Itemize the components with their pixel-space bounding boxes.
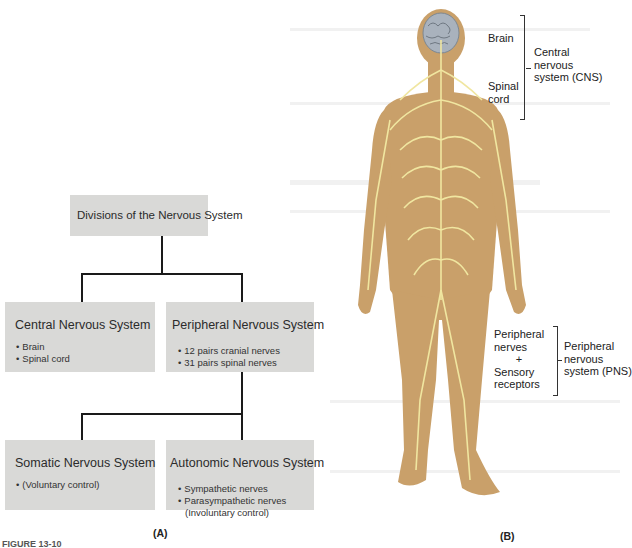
ans-node: Autonomic Nervous System Sympathetic ner… xyxy=(166,440,314,510)
pns-label: Peripheral nervous system (PNS) xyxy=(564,340,632,378)
spinal-cord-label: Spinal cord xyxy=(488,80,519,105)
list-item: 12 pairs cranial nerves xyxy=(178,345,280,357)
root-node: Divisions of the Nervous System xyxy=(70,195,208,236)
connector xyxy=(81,273,242,275)
list-item: Sympathetic nerves xyxy=(178,483,286,495)
list-item: (Voluntary control) xyxy=(16,479,99,491)
figure-caption: FIGURE 13-10 xyxy=(2,539,62,548)
connector xyxy=(241,413,243,440)
cns-bracket xyxy=(520,15,525,120)
ans-node-list: Sympathetic nerves Parasympathetic nerve… xyxy=(178,483,286,519)
plus-sign: + xyxy=(494,353,544,366)
peripheral-nerves-label-line: nerves xyxy=(494,341,544,354)
cns-node-list: Brain Spinal cord xyxy=(16,341,70,365)
list-item: 31 pairs spinal nerves xyxy=(178,357,280,369)
peripheral-nerves-label: Peripheral nerves + Sensory receptors xyxy=(494,328,544,391)
spinal-cord-label-line: cord xyxy=(488,93,519,106)
panel-b-label: (B) xyxy=(500,530,515,542)
list-item: Parasympathetic nerves xyxy=(178,495,286,507)
sns-node-list: (Voluntary control) xyxy=(16,479,99,491)
sensory-receptors-label-line: Sensory xyxy=(494,366,544,379)
cns-label-line: system (CNS) xyxy=(534,71,602,84)
sensory-receptors-label-line: receptors xyxy=(494,378,544,391)
cns-bracket-tick xyxy=(526,68,531,69)
list-item: Brain xyxy=(16,341,70,353)
peripheral-nerves-label-line: Peripheral xyxy=(494,328,544,341)
cns-node-title: Central Nervous System xyxy=(15,318,150,332)
brain-label: Brain xyxy=(488,32,514,45)
connector xyxy=(81,413,242,415)
spinal-cord-label-line: Spinal xyxy=(488,80,519,93)
cns-node: Central Nervous System Brain Spinal cord xyxy=(5,302,155,372)
pns-label-line: Peripheral xyxy=(564,340,632,353)
list-item: (Involuntary control) xyxy=(178,507,286,519)
pns-bracket-tick xyxy=(557,360,562,361)
connector xyxy=(241,372,243,414)
pns-label-line: nervous xyxy=(564,353,632,366)
cns-label: Central nervous system (CNS) xyxy=(534,46,602,84)
sns-node: Somatic Nervous System (Voluntary contro… xyxy=(5,440,155,510)
pns-node-title: Peripheral Nervous System xyxy=(172,318,324,332)
sns-node-title: Somatic Nervous System xyxy=(15,456,155,470)
ans-node-title: Autonomic Nervous System xyxy=(170,456,324,470)
panel-a-label: (A) xyxy=(153,527,168,539)
connector xyxy=(81,273,83,302)
connector xyxy=(81,413,83,440)
list-item: Spinal cord xyxy=(16,353,70,365)
cns-label-line: Central xyxy=(534,46,602,59)
connector xyxy=(241,273,243,302)
pns-label-line: system (PNS) xyxy=(564,365,632,378)
pns-node-list: 12 pairs cranial nerves 31 pairs spinal … xyxy=(178,345,280,369)
pns-node: Peripheral Nervous System 12 pairs crani… xyxy=(166,302,314,372)
cns-label-line: nervous xyxy=(534,59,602,72)
connector xyxy=(161,236,163,273)
root-node-title: Divisions of the Nervous System xyxy=(77,209,243,221)
